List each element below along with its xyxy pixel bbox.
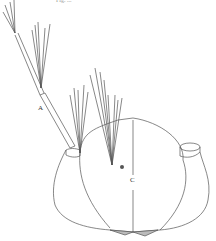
body-outline: [53, 150, 209, 232]
label-c: C: [130, 176, 135, 184]
label-a: A: [38, 104, 43, 112]
specimen-illustration: [0, 0, 216, 241]
